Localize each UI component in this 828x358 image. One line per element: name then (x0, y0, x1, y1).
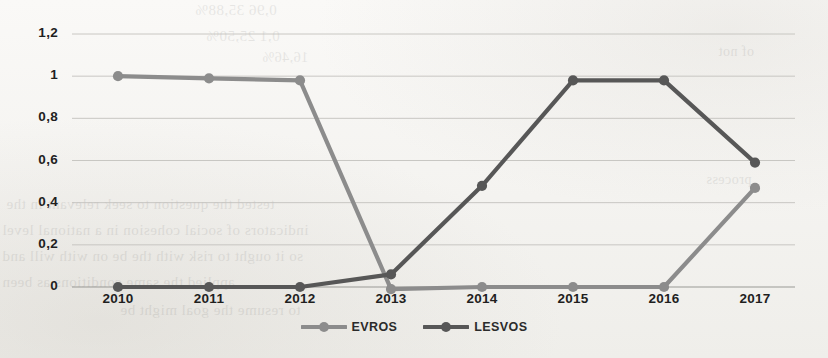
y-axis-tick-label: 1,2 (0, 25, 58, 40)
line-marker-icon (423, 320, 469, 334)
data-point-marker (568, 75, 578, 85)
legend-label: EVROS (352, 320, 398, 334)
legend-item-evros[interactable]: EVROS (301, 320, 398, 334)
x-axis-tick-label: 2017 (720, 291, 790, 306)
data-point-marker (659, 75, 669, 85)
x-axis-tick-label: 2016 (629, 291, 699, 306)
x-axis-tick-label: 2010 (83, 291, 153, 306)
y-axis-tick-label: 0,4 (0, 194, 58, 209)
data-point-marker (750, 158, 760, 168)
data-point-marker (204, 73, 214, 83)
line-marker-icon (301, 320, 347, 334)
gridlines (72, 34, 795, 287)
data-point-marker (113, 71, 123, 81)
series-line-evros (118, 76, 755, 289)
series-layer (113, 71, 760, 294)
y-axis-tick-label: 0,2 (0, 236, 58, 251)
y-axis-tick-label: 1 (0, 67, 58, 82)
y-axis-tick-label: 0,8 (0, 109, 58, 124)
x-axis-tick-label: 2015 (538, 291, 608, 306)
x-axis-tick-label: 2014 (447, 291, 517, 306)
x-axis-tick-label: 2012 (265, 291, 335, 306)
legend-label: LESVOS (474, 320, 527, 334)
chart-legend: EVROSLESVOS (0, 320, 828, 334)
y-axis-tick-label: 0,6 (0, 152, 58, 167)
data-point-marker (750, 183, 760, 193)
data-point-marker (477, 181, 487, 191)
x-axis-tick-label: 2011 (174, 291, 244, 306)
y-axis-tick-label: 0 (0, 278, 58, 293)
legend-item-lesvos[interactable]: LESVOS (423, 320, 527, 334)
x-axis-tick-label: 2013 (356, 291, 426, 306)
data-point-marker (386, 269, 396, 279)
series-line-lesvos (118, 80, 755, 287)
line-chart: 00,20,40,60,811,2 2010201120122013201420… (0, 0, 828, 358)
data-point-marker (295, 75, 305, 85)
